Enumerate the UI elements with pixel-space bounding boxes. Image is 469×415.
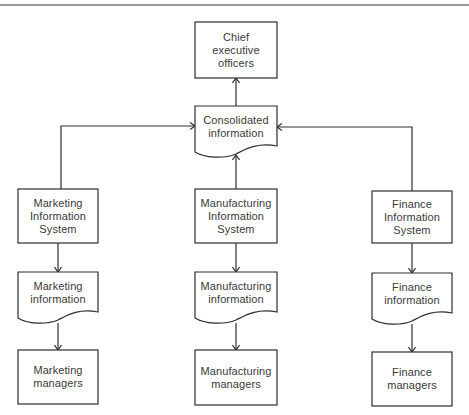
node-label-line: information: [208, 293, 264, 306]
node-label-line: officers: [218, 57, 254, 70]
node-label-line: Marketing: [33, 280, 82, 293]
node-label-line: managers: [211, 378, 261, 391]
node-label-line: Marketing: [33, 364, 82, 377]
node-label-mfg-is: ManufacturingInformationSystem: [195, 189, 277, 243]
node-label-ceo: Chiefexecutiveofficers: [195, 22, 277, 78]
node-label-fin-info: Financeinformation: [372, 273, 452, 315]
node-label-line: Information: [384, 211, 440, 224]
node-label-mfg-mgr: Manufacturingmanagers: [195, 350, 277, 405]
node-label-line: Finance: [392, 366, 432, 379]
node-label-line: System: [39, 223, 76, 236]
node-label-line: Manufacturing: [200, 197, 271, 210]
node-label-mfg-info: Manufacturinginformation: [195, 272, 277, 314]
node-label-line: Consolidated: [203, 114, 268, 127]
node-label-line: information: [30, 293, 86, 306]
node-label-line: managers: [387, 379, 437, 392]
node-label-mkt-is: MarketingInformationSystem: [18, 189, 98, 243]
node-label-line: Finance: [392, 281, 432, 294]
node-label-line: executive: [212, 44, 259, 57]
node-label-mkt-mgr: Marketingmanagers: [18, 350, 98, 404]
node-label-line: Marketing: [33, 197, 82, 210]
node-label-line: managers: [33, 377, 83, 390]
node-label-fin-is: FinanceInformationSystem: [372, 191, 452, 243]
node-label-line: information: [208, 127, 264, 140]
node-label-mkt-info: Marketinginformation: [18, 272, 98, 314]
node-label-line: information: [384, 294, 440, 307]
edge-fin-is-to-consolidated: [277, 127, 412, 191]
node-label-consolidated: Consolidatedinformation: [195, 106, 277, 148]
edge-mkt-is-to-consolidated: [61, 126, 195, 189]
node-label-line: Information: [208, 210, 264, 223]
node-label-line: System: [217, 223, 254, 236]
node-label-line: Finance: [392, 198, 432, 211]
node-label-line: System: [393, 224, 430, 237]
node-label-line: Chief: [223, 31, 249, 44]
node-label-line: Information: [30, 210, 86, 223]
node-label-line: Manufacturing: [200, 365, 271, 378]
node-label-fin-mgr: Financemanagers: [372, 352, 452, 406]
node-label-line: Manufacturing: [200, 280, 271, 293]
